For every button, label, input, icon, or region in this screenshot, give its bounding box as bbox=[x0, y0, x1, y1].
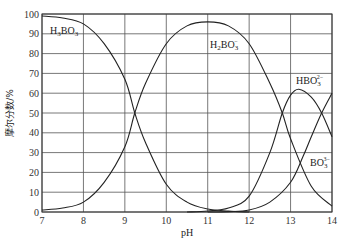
y-axis-ticks: 0102030405060708090100 bbox=[24, 9, 39, 218]
label-bo3: BO33− bbox=[310, 156, 330, 170]
label-hbo3: HBO32− bbox=[296, 74, 324, 88]
label-h2bo3: H2BO3− bbox=[210, 38, 239, 52]
x-tick-label: 11 bbox=[203, 215, 213, 226]
series-curves bbox=[42, 16, 332, 212]
grid-lines bbox=[42, 14, 332, 212]
y-tick-label: 50 bbox=[29, 108, 39, 119]
y-tick-label: 70 bbox=[29, 68, 39, 79]
x-tick-label: 9 bbox=[122, 215, 127, 226]
y-axis-label: 摩尔分数/% bbox=[4, 89, 15, 137]
label-h3bo3: H3BO3 bbox=[50, 25, 79, 38]
y-tick-label: 100 bbox=[24, 9, 39, 20]
y-tick-label: 80 bbox=[29, 48, 39, 59]
x-tick-label: 10 bbox=[161, 215, 171, 226]
x-axis-label: pH bbox=[181, 227, 193, 238]
y-tick-label: 60 bbox=[29, 88, 39, 99]
y-tick-label: 40 bbox=[29, 127, 39, 138]
x-tick-label: 14 bbox=[327, 215, 337, 226]
y-tick-label: 30 bbox=[29, 147, 39, 158]
x-tick-label: 13 bbox=[286, 215, 296, 226]
y-tick-label: 0 bbox=[34, 207, 39, 218]
x-tick-label: 7 bbox=[40, 215, 45, 226]
series-curve-h2bo3- bbox=[42, 22, 332, 210]
y-tick-label: 20 bbox=[29, 167, 39, 178]
y-tick-label: 10 bbox=[29, 187, 39, 198]
x-tick-label: 12 bbox=[244, 215, 254, 226]
x-axis-ticks: 7891011121314 bbox=[40, 215, 338, 226]
series-curve-hbo3-2- bbox=[187, 89, 332, 212]
speciation-chart: 0102030405060708090100 7891011121314 pH … bbox=[0, 0, 342, 241]
x-tick-label: 8 bbox=[81, 215, 86, 226]
y-tick-label: 90 bbox=[29, 28, 39, 39]
